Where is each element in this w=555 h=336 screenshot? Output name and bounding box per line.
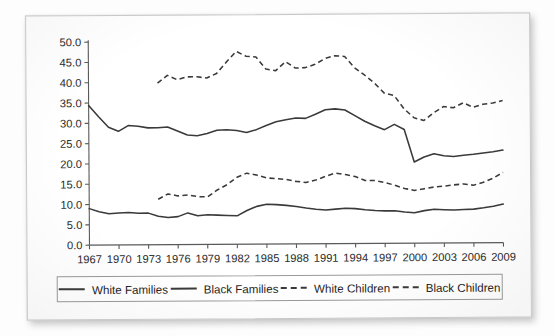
legend-swatch-dashed-icon: [393, 286, 419, 288]
legend-item-black-children[interactable]: Black Children: [393, 280, 501, 294]
series-line-white-families: [89, 103, 503, 164]
x-tick-label: 1979: [195, 252, 220, 264]
y-tick-label: 30.0: [60, 117, 82, 129]
screenshot-canvas: 0.05.010.015.020.025.030.035.040.045.050…: [0, 0, 555, 336]
legend-swatch-solid-icon: [59, 288, 85, 290]
y-tick-label: 5.0: [67, 219, 83, 231]
x-tick-label: 1970: [107, 253, 132, 265]
y-tick-label: 40.0: [60, 77, 82, 89]
x-tick-label: 1994: [343, 251, 368, 263]
legend-item-white-families[interactable]: White Families: [59, 282, 168, 296]
x-tick-label: 2003: [432, 251, 457, 263]
x-tick-label: 1997: [373, 251, 398, 263]
chart-legend: White Families Black Families White Chil…: [57, 274, 503, 303]
y-tick-label: 20.0: [60, 158, 82, 170]
series-line-white-children: [158, 172, 503, 200]
y-tick-label: 50.0: [59, 36, 81, 48]
y-tick-label: 10.0: [60, 199, 82, 211]
chart-sheet: 0.05.010.015.020.025.030.035.040.045.050…: [25, 12, 532, 320]
y-tick-label: 0.0: [67, 239, 83, 251]
y-tick-label: 45.0: [60, 57, 82, 69]
legend-label: Black Families: [204, 282, 279, 295]
x-tick-label: 2006: [462, 251, 487, 263]
y-axis-line: [88, 40, 89, 245]
y-tick-label: 25.0: [60, 138, 82, 150]
legend-swatch-dashed-icon: [281, 287, 307, 289]
x-tick-label: 1976: [166, 253, 191, 265]
legend-label: Black Children: [426, 280, 501, 293]
legend-label: White Families: [92, 282, 168, 295]
x-tick-label: 1973: [136, 253, 161, 265]
x-tick-label: 1982: [225, 252, 250, 264]
series-line-black-children: [157, 50, 502, 122]
series-line-black-families: [89, 203, 503, 218]
x-tick-label: 2009: [491, 251, 516, 263]
x-tick-label: 1985: [255, 252, 280, 264]
x-tick-label: 1967: [77, 253, 102, 265]
legend-swatch-solid-icon: [171, 288, 197, 290]
x-tick-label: 1988: [284, 252, 309, 264]
y-tick-label: 35.0: [60, 97, 82, 109]
x-tick-label: 1991: [314, 252, 339, 264]
legend-item-black-families[interactable]: Black Families: [171, 282, 279, 296]
legend-label: White Children: [314, 281, 390, 294]
legend-item-white-children[interactable]: White Children: [281, 281, 390, 295]
x-tick-label: 2000: [402, 251, 427, 263]
y-tick-label: 15.0: [60, 178, 82, 190]
